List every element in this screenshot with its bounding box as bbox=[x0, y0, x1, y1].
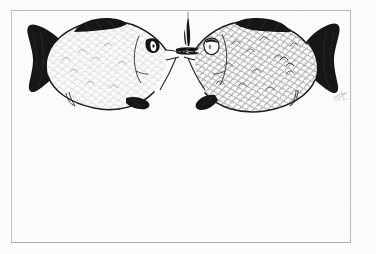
right-fish-eye bbox=[204, 38, 219, 54]
ink-drawing bbox=[0, 0, 376, 254]
artwork-canvas: Two Kissing Fish pen and ink drawing on … bbox=[0, 0, 376, 254]
